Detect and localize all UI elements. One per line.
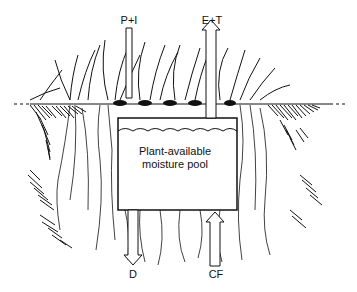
label-cf: CF: [205, 268, 227, 280]
pool-label-line2: moisture pool: [120, 158, 230, 171]
soil-hatching-right: [268, 105, 322, 228]
vegetation: [30, 40, 290, 100]
label-p-plus-i: P+I: [115, 14, 143, 26]
arrow-capillary-flow-icon: [206, 212, 224, 266]
pool-label: Plant-available moisture pool: [120, 145, 230, 171]
label-d: D: [126, 268, 140, 280]
plant-crowns: [113, 100, 236, 106]
arrow-evap-transpiration-icon: [202, 20, 220, 118]
pool-label-line1: Plant-available: [120, 145, 230, 158]
arrow-precip-irrigation-icon: [126, 28, 132, 98]
label-e-plus-t: E+T: [197, 14, 227, 26]
soil-hatching-left: [28, 105, 86, 248]
